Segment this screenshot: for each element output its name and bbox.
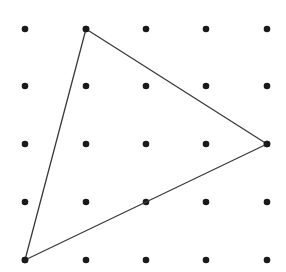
grid-dot bbox=[264, 26, 271, 33]
grid-dot bbox=[22, 141, 29, 148]
grid-dot bbox=[143, 141, 150, 148]
grid-dot bbox=[203, 141, 210, 148]
triangle-vertex-dot bbox=[83, 26, 90, 33]
grid-dot bbox=[203, 199, 210, 206]
grid-dot bbox=[83, 83, 90, 90]
grid-dot bbox=[203, 257, 210, 264]
grid-dot bbox=[83, 141, 90, 148]
grid-dots bbox=[22, 26, 271, 264]
grid-dot bbox=[264, 199, 271, 206]
grid-dot bbox=[143, 26, 150, 33]
dot-grid-diagram bbox=[0, 0, 286, 272]
grid-dot bbox=[264, 83, 271, 90]
grid-dot bbox=[264, 257, 271, 264]
grid-dot bbox=[22, 83, 29, 90]
grid-dot bbox=[22, 199, 29, 206]
grid-dot bbox=[83, 199, 90, 206]
grid-dot bbox=[203, 83, 210, 90]
triangle-vertex-dot bbox=[22, 257, 29, 264]
triangle-vertex-dot bbox=[264, 141, 271, 148]
grid-dot bbox=[143, 83, 150, 90]
grid-dot bbox=[143, 257, 150, 264]
grid-dot bbox=[83, 257, 90, 264]
grid-dot bbox=[203, 26, 210, 33]
grid-dot bbox=[22, 26, 29, 33]
